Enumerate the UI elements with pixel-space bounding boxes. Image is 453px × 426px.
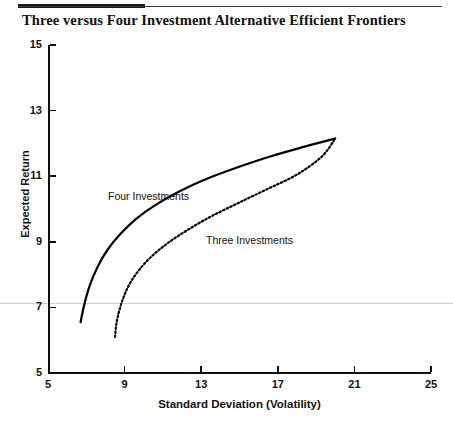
chart-plot-area: 579111315 5913172125 Four Investments Th… <box>0 0 453 426</box>
y-axis-title: Expected Return <box>19 134 31 254</box>
efficient-frontier-curves <box>0 0 453 426</box>
x-axis-title: Standard Deviation (Volatility) <box>48 398 431 410</box>
annotation-three-investments: Three Investments <box>206 234 293 246</box>
annotation-four-investments: Four Investments <box>108 190 189 202</box>
series-four-investments-curve <box>81 138 336 322</box>
